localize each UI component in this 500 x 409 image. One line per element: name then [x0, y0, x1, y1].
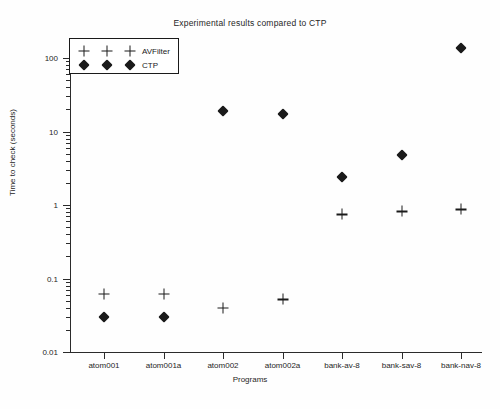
legend-marker-plus-icon	[79, 46, 90, 57]
y-tick-label: 10	[0, 127, 58, 136]
y-minor-tick-mark	[66, 243, 71, 244]
y-minor-tick-mark	[66, 139, 71, 140]
y-minor-tick-mark	[66, 221, 71, 222]
y-minor-tick-mark	[66, 74, 71, 75]
y-minor-tick-mark	[66, 161, 71, 162]
legend-label: CTP	[142, 61, 158, 70]
data-point-avfilter	[218, 302, 229, 313]
data-point-ctp	[98, 311, 109, 322]
chart-figure: Experimental results compared to CTP Tim…	[0, 0, 500, 409]
x-tick-mark	[402, 353, 403, 359]
data-point-ctp	[336, 171, 347, 182]
y-tick-mark	[63, 205, 71, 206]
y-minor-tick-mark	[66, 282, 71, 283]
y-minor-tick-mark	[66, 80, 71, 81]
x-tick-mark	[164, 353, 165, 359]
y-minor-tick-mark	[66, 109, 71, 110]
data-point-ctp	[396, 149, 407, 160]
y-tick-label: 0.1	[0, 274, 58, 283]
y-tick-label: 1	[0, 201, 58, 210]
y-minor-tick-mark	[66, 208, 71, 209]
y-tick-label: 100	[0, 54, 58, 63]
y-minor-tick-mark	[66, 256, 71, 257]
y-minor-tick-mark	[66, 308, 71, 309]
x-tick-mark	[342, 353, 343, 359]
y-minor-tick-mark	[66, 317, 71, 318]
y-tick-label: 0.01	[0, 348, 58, 357]
y-minor-tick-mark	[66, 286, 71, 287]
chart-title: Experimental results compared to CTP	[0, 18, 500, 28]
data-point-avfilter	[277, 294, 288, 305]
y-minor-tick-mark	[66, 183, 71, 184]
legend-marker-diamond-icon	[101, 59, 112, 70]
x-tick-label: bank-nav-8	[421, 361, 500, 370]
y-tick-mark	[63, 279, 71, 280]
y-minor-tick-mark	[66, 87, 71, 88]
y-minor-tick-mark	[66, 135, 71, 136]
y-minor-tick-mark	[66, 96, 71, 97]
legend-label: AVFilter	[142, 47, 170, 56]
x-tick-mark	[283, 353, 284, 359]
y-tick-mark	[63, 132, 71, 133]
data-point-avfilter	[456, 204, 467, 215]
x-tick-mark	[104, 353, 105, 359]
data-point-ctp	[217, 105, 228, 116]
y-minor-tick-mark	[66, 227, 71, 228]
y-minor-tick-mark	[66, 234, 71, 235]
y-minor-tick-mark	[66, 212, 71, 213]
data-point-avfilter	[158, 288, 169, 299]
x-axis-line	[70, 352, 482, 353]
x-tick-mark	[223, 353, 224, 359]
legend-marker-diamond-icon	[124, 59, 135, 70]
y-minor-tick-mark	[66, 216, 71, 217]
y-minor-tick-mark	[66, 154, 71, 155]
y-minor-tick-mark	[66, 301, 71, 302]
legend-marker-plus-icon	[102, 46, 113, 57]
y-minor-tick-mark	[66, 290, 71, 291]
y-minor-tick-mark	[66, 295, 71, 296]
x-axis-title: Programs	[0, 375, 500, 384]
y-minor-tick-mark	[66, 148, 71, 149]
legend-entry-ctp: CTP	[70, 58, 180, 72]
data-point-ctp	[158, 311, 169, 322]
data-point-avfilter	[337, 209, 348, 220]
y-minor-tick-mark	[66, 330, 71, 331]
y-tick-mark	[63, 352, 71, 353]
data-point-avfilter	[396, 206, 407, 217]
x-tick-mark	[461, 353, 462, 359]
y-minor-tick-mark	[66, 170, 71, 171]
data-point-ctp	[455, 43, 466, 54]
legend-entry-avfilter: AVFilter	[70, 44, 180, 58]
legend-marker-plus-icon	[125, 46, 136, 57]
y-minor-tick-mark	[66, 143, 71, 144]
chart-legend: AVFilterCTP	[69, 38, 179, 74]
data-point-ctp	[277, 108, 288, 119]
data-point-avfilter	[99, 288, 110, 299]
legend-marker-diamond-icon	[78, 59, 89, 70]
